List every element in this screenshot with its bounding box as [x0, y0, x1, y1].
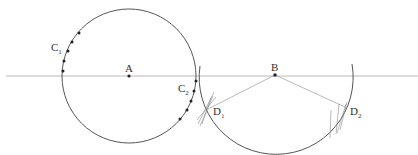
segment-b-d1	[208, 75, 275, 109]
label-c1: C1	[51, 41, 62, 56]
label-b: B	[271, 61, 278, 73]
label-a: A	[125, 62, 133, 74]
segment-b-d2	[275, 75, 345, 107]
point-a	[127, 74, 130, 77]
label-d1: D1	[213, 105, 225, 120]
point-b	[274, 74, 277, 77]
geometry-diagram: A B C1 C2 D1 D2	[0, 0, 418, 155]
construction-marks-d2	[330, 102, 347, 138]
label-c2: C2	[178, 82, 189, 97]
label-d2: D2	[350, 105, 362, 120]
c1-points	[62, 32, 81, 73]
arc-b	[199, 64, 353, 154]
